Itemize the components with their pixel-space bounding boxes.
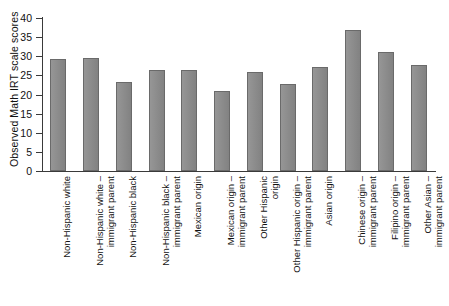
y-axis-tick-label: 20 xyxy=(2,90,32,100)
bar xyxy=(312,67,328,171)
plot-area xyxy=(42,18,435,171)
bar xyxy=(116,82,132,171)
x-axis-label-line: Filipino origin – xyxy=(390,176,401,296)
x-axis-label-line: Asian origin xyxy=(324,176,335,296)
x-axis-label-line: Other Hispanic origin – xyxy=(292,176,303,296)
bar xyxy=(83,58,99,171)
x-axis-label-line: immigrant parent xyxy=(433,176,444,296)
bar xyxy=(378,52,394,171)
x-axis-label-line: Non-Hispanic white xyxy=(62,176,73,296)
x-axis-label-line: Mexican origin xyxy=(193,176,204,296)
x-axis-label-line: Other Hispanic xyxy=(259,176,270,296)
bar xyxy=(149,70,165,171)
y-axis-tick-label: 5 xyxy=(2,147,32,157)
y-axis-tick xyxy=(36,171,42,172)
x-axis-label: Other Asian –immigrant parent xyxy=(423,176,449,197)
x-axis-label-line: origin xyxy=(269,176,280,296)
x-axis-label-line: Non-Hispanic black – xyxy=(161,176,172,296)
x-axis-label-line: immigrant parent xyxy=(368,176,379,296)
x-axis-label-line: immigrant parent xyxy=(171,176,182,296)
y-axis-tick-label: 35 xyxy=(2,32,32,42)
x-axis-label-line: immigrant parent xyxy=(237,176,248,296)
y-axis-tick-label: 25 xyxy=(2,70,32,80)
bar xyxy=(280,84,296,171)
bar xyxy=(214,91,230,171)
y-axis-tick-label: 0 xyxy=(2,166,32,176)
bar xyxy=(50,59,66,171)
x-axis-line xyxy=(42,171,436,172)
x-axis-label-line: Non-Hispanic black xyxy=(128,176,139,296)
x-axis-label-line: immigrant parent xyxy=(302,176,313,296)
caption-partial xyxy=(0,297,441,306)
bar xyxy=(411,65,427,171)
y-axis-tick-label: 30 xyxy=(2,51,32,61)
y-axis-tick-label: 15 xyxy=(2,109,32,119)
bar xyxy=(181,70,197,171)
bar xyxy=(345,30,361,171)
y-axis-tick-label: 40 xyxy=(2,13,32,23)
x-axis-label-line: Other Asian – xyxy=(423,176,434,296)
y-axis-tick-label: 10 xyxy=(2,128,32,138)
x-axis-label-line: immigrant parent xyxy=(106,176,117,296)
x-axis-label-line: immigrant parent xyxy=(400,176,411,296)
bar xyxy=(247,72,263,171)
